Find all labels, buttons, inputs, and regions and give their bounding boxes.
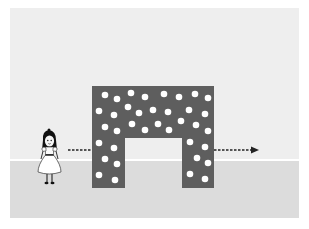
scene-drawing xyxy=(0,0,309,229)
girl-figure xyxy=(38,129,61,185)
dotted-arch-block xyxy=(92,86,214,188)
